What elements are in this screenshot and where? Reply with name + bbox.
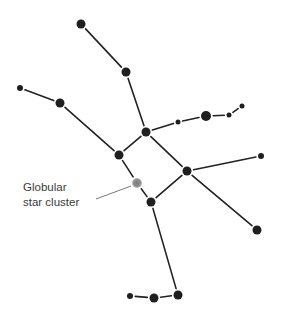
star-dot bbox=[253, 226, 262, 235]
star-dot bbox=[56, 99, 65, 108]
constellation-line bbox=[156, 175, 182, 197]
star-dot bbox=[258, 153, 264, 159]
star-dot bbox=[176, 120, 181, 125]
star-dot bbox=[115, 151, 124, 160]
constellation-line bbox=[153, 208, 176, 288]
constellation-line bbox=[233, 109, 238, 113]
star-dot bbox=[183, 167, 192, 176]
constellation-line bbox=[123, 161, 134, 177]
star-dot bbox=[240, 104, 245, 109]
constellation-line bbox=[161, 296, 172, 297]
label-line-1: Globular bbox=[23, 180, 79, 195]
constellation-line bbox=[213, 115, 224, 116]
constellation-lines bbox=[25, 29, 256, 298]
star-dot bbox=[201, 111, 211, 121]
star-dot bbox=[227, 113, 232, 118]
constellation-line bbox=[25, 90, 54, 101]
star-dot bbox=[147, 198, 156, 207]
star-dot bbox=[17, 85, 23, 91]
constellation-line bbox=[192, 175, 252, 225]
label-line-2: star cluster bbox=[23, 195, 79, 210]
constellation-line bbox=[124, 136, 141, 150]
constellation-line bbox=[152, 123, 173, 130]
globular-cluster-label: Globular star cluster bbox=[23, 180, 79, 210]
globular-cluster-marker bbox=[132, 178, 142, 188]
star-dot bbox=[122, 68, 131, 77]
star-dot bbox=[127, 293, 133, 299]
constellation-line bbox=[194, 157, 256, 170]
star-dot bbox=[142, 128, 151, 137]
stars bbox=[17, 20, 264, 303]
constellation-line bbox=[141, 189, 147, 197]
label-leader-line bbox=[96, 186, 131, 199]
constellation-diagram bbox=[0, 0, 282, 313]
constellation-line bbox=[151, 137, 182, 167]
constellation-line bbox=[135, 296, 147, 297]
star-dot bbox=[150, 294, 159, 303]
constellation-line bbox=[65, 107, 114, 150]
star-dot bbox=[174, 291, 183, 300]
constellation-line bbox=[86, 29, 122, 67]
star-dot bbox=[77, 20, 86, 29]
constellation-line bbox=[128, 78, 144, 125]
constellation-line bbox=[183, 118, 199, 122]
